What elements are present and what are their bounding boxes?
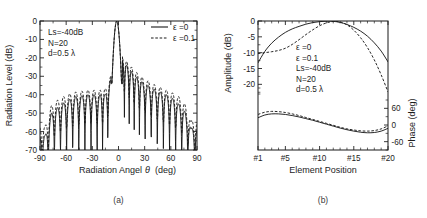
y-tick-label-a: 0 [32,17,37,26]
x-tick-label-a: -60 [60,154,72,163]
chart-radiation-pattern: -90-60-3003060900-10-20-30-40-50-60-70Ra… [4,17,202,205]
x-tick-label-b: #10 [313,154,327,163]
y-tick-label-a: -60 [25,128,37,137]
y-tick-label-amplitude-b: -10 [243,49,255,58]
y-tick-label-phase-b: 60 [392,104,402,113]
annotation-b: ε =0.1 [296,54,319,63]
curves-b [258,21,388,133]
x-tick-label-a: 60 [166,154,176,163]
x-tick-label-a: 0 [116,154,121,163]
y-tick-label-a: -40 [25,91,37,100]
x-axis-title-b: Element Position [289,165,357,175]
y-tick-label-a: -20 [25,54,37,63]
annotation-b: d=0.5 λ [296,85,324,94]
caption-b: (b) [318,195,329,205]
y-tick-label-amplitude-b: 0 [250,17,255,26]
y-tick-label-amplitude-b: -20 [243,80,255,89]
x-tick-label-b: #20 [381,154,395,163]
y-tick-label-amplitude-b: -15 [243,65,255,74]
y-tick-label-a: -70 [25,146,37,155]
y-tick-label-a: -50 [25,109,37,118]
curve-amplitude-epsilon-0-b [258,21,388,63]
x-axis-unit-a: (deg) [155,165,176,175]
annotation-b: Ls=-40dB [296,64,332,73]
y-tick-label-a: -10 [25,35,37,44]
y-axis-title-a: Radiation Level (dB) [4,45,14,127]
chart-element-excitation: #1#5#10#15#200-5-10-15-20600-60Element P… [223,17,417,205]
x-tick-label-a: 30 [140,154,150,163]
y-tick-label-phase-b: 0 [392,121,397,130]
figure-svg: -90-60-3003060900-10-20-30-40-50-60-70Ra… [0,0,427,218]
annotation-b: N=20 [296,75,316,84]
curve-phase-epsilon-0-b [258,114,388,133]
legend-label-2: ε =0.1 [173,34,196,43]
x-tick-label-b: #1 [253,154,263,163]
x-tick-label-a: 90 [192,154,202,163]
y-tick-label-amplitude-b: -5 [248,33,256,42]
annotation-b: ε =0 [296,43,312,52]
figure-container: -90-60-3003060900-10-20-30-40-50-60-70Ra… [0,0,427,218]
legend-label-1: ε =0 [173,23,189,32]
x-axis-symbol-a: θ [145,165,150,175]
x-tick-label-a: -30 [86,154,98,163]
caption-a: (a) [113,195,124,205]
x-tick-label-b: #5 [281,154,291,163]
curve-phase-epsilon-0p1-b [258,111,388,131]
y-tick-label-a: -30 [25,72,37,81]
annotation-a: N=20 [48,39,68,48]
y-axis-title-amplitude-b: Amplitude (dB) [223,33,233,93]
y-tick-label-phase-b: -60 [392,138,404,147]
y-axis-title-phase-b: Phase (deg) [407,98,417,147]
annotation-a: d=0.5 λ [48,49,76,58]
x-axis-title-a: Radiation Angel [79,165,142,175]
curve-amplitude-epsilon-0p1-b [258,21,388,92]
annotation-a: Ls=-40dB [48,28,84,37]
x-tick-label-b: #15 [347,154,361,163]
